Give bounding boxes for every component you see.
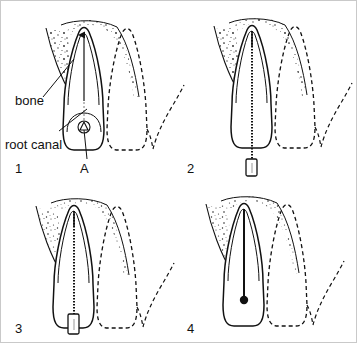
panel-4: 4	[187, 196, 344, 336]
root-canal-label: root canal	[5, 137, 62, 152]
panel-1-number: 1	[15, 161, 22, 176]
rubber-stop-3[interactable]	[68, 314, 79, 334]
panel-4-number: 4	[187, 321, 194, 336]
panel-2-number: 2	[187, 161, 194, 176]
adjacent-tooth-1	[107, 29, 184, 151]
rubber-stop-2[interactable]	[246, 159, 257, 176]
adjacent-tooth-2	[275, 27, 352, 149]
panel-3-number: 3	[15, 321, 22, 336]
panel-3: 3	[15, 198, 174, 336]
adjacent-tooth-4	[267, 205, 344, 327]
canal-filling-mass	[240, 296, 248, 304]
bone-label: bone	[15, 93, 44, 108]
dental-figure: bone root canal A 1	[0, 0, 357, 343]
point-a-label: A	[80, 161, 89, 176]
adjacent-tooth-3	[97, 207, 174, 329]
panel-1: bone root canal A 1	[5, 20, 184, 176]
panel-2: 2	[187, 18, 352, 176]
figure-canvas: bone root canal A 1	[1, 1, 357, 343]
